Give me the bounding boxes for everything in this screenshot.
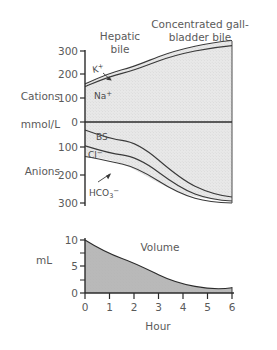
volume-ticklabel-0: 0 xyxy=(71,287,78,299)
series-label-bs: BS xyxy=(96,132,108,142)
series-label-cl: Cl− xyxy=(88,149,103,160)
series-label-volume: Volume xyxy=(140,241,179,253)
x-ticklabel-0: 0 xyxy=(82,301,89,313)
panel-anions: BS Cl− HCO3− 100 200 300 xyxy=(58,122,232,209)
x-ticklabel-2: 2 xyxy=(131,301,138,313)
panel-cations: K+ Na+ 300 200 100 0 xyxy=(58,41,232,129)
series-label-hco3: HCO3− xyxy=(89,187,119,200)
bile-composition-figure: Hepatic bile Concentrated gall- bladder … xyxy=(0,0,277,350)
anions-ticklabel-300: 300 xyxy=(58,197,78,209)
axis-label-anions: Anions xyxy=(25,165,60,177)
title-hepatic-line2: bile xyxy=(111,43,130,55)
x-ticklabel-3: 3 xyxy=(155,301,162,313)
title-hepatic-bile: Hepatic bile xyxy=(100,30,140,55)
volume-ticklabel-10: 10 xyxy=(65,234,78,246)
x-ticklabel-5: 5 xyxy=(204,301,211,313)
hco3-leader-arrowhead xyxy=(106,173,111,179)
figure-svg: Hepatic bile Concentrated gall- bladder … xyxy=(0,0,277,350)
x-axis: 0 1 2 3 4 5 6 Hour xyxy=(82,293,236,332)
cations-ticklabel-200: 200 xyxy=(58,68,78,80)
cations-ticklabel-300: 300 xyxy=(58,45,78,57)
x-axis-title: Hour xyxy=(145,320,171,332)
axis-label-units-mmol: mmol/L xyxy=(21,118,60,130)
axis-label-units-ml: mL xyxy=(36,254,52,266)
x-ticklabel-4: 4 xyxy=(180,301,187,313)
x-ticklabel-6: 6 xyxy=(229,301,236,313)
axis-label-cations: Cations xyxy=(21,90,60,102)
cations-area-texture xyxy=(85,41,232,122)
title-hepatic-line1: Hepatic xyxy=(100,30,140,42)
title-gallbladder-line1: Concentrated gall- xyxy=(151,18,249,30)
title-gallbladder-bile: Concentrated gall- bladder bile xyxy=(151,18,249,43)
cations-ticklabel-100: 100 xyxy=(58,92,78,104)
x-ticklabel-1: 1 xyxy=(106,301,113,313)
anions-ticklabel-100: 100 xyxy=(58,141,78,153)
volume-ticklabel-5: 5 xyxy=(71,260,78,272)
cations-ticklabel-0: 0 xyxy=(71,116,78,128)
anions-ticklabel-200: 200 xyxy=(58,169,78,181)
panel-volume: Volume 10 5 0 xyxy=(65,234,232,299)
